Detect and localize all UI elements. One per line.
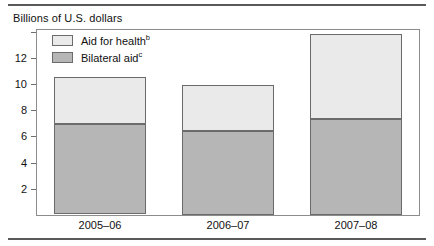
y-tick-mark xyxy=(31,163,36,164)
x-axis-label: 2007–08 xyxy=(292,219,420,231)
bar-segment-aid-for-health xyxy=(310,34,402,119)
legend: Aid for healthbBilateral aidc xyxy=(52,33,150,67)
legend-label-text: Aid for health xyxy=(81,35,146,47)
y-tick-label: 12 xyxy=(3,52,27,64)
y-tick-label: 10 xyxy=(3,78,27,90)
y-tick-label: 2 xyxy=(3,183,27,195)
bar-segment-aid-for-health xyxy=(182,85,274,131)
y-tick-label: 6 xyxy=(3,130,27,142)
bar-2007-08 xyxy=(310,34,402,215)
legend-label-text: Bilateral aid xyxy=(81,52,138,64)
y-axis-title: Billions of U.S. dollars xyxy=(13,12,122,24)
legend-item-bilateral-aid[interactable]: Bilateral aidc xyxy=(52,50,150,65)
x-axis-label: 2005–06 xyxy=(36,219,164,231)
legend-swatch-icon xyxy=(52,52,73,63)
bar-2005-06 xyxy=(54,77,146,215)
y-tick-mark xyxy=(31,58,36,59)
legend-footnote-marker: c xyxy=(138,50,142,59)
bar-segment-bilateral-aid xyxy=(54,124,146,214)
legend-swatch-icon xyxy=(52,35,73,46)
bar-segment-aid-for-health xyxy=(54,77,146,124)
bar-segment-bilateral-aid xyxy=(310,119,402,215)
bar-segment-bilateral-aid xyxy=(182,131,274,215)
legend-label: Bilateral aidc xyxy=(81,52,142,64)
y-tick-mark xyxy=(31,110,36,111)
y-tick-label: 4 xyxy=(3,157,27,169)
x-axis-label: 2006–07 xyxy=(164,219,292,231)
figure: Billions of U.S. dollars 24681012 2005–0… xyxy=(0,0,434,246)
legend-footnote-marker: b xyxy=(146,33,150,42)
bar-2006-07 xyxy=(182,85,274,215)
y-tick-label: 8 xyxy=(3,104,27,116)
legend-label: Aid for healthb xyxy=(81,35,150,47)
top-divider-rule xyxy=(8,4,426,6)
y-tick-mark xyxy=(31,136,36,137)
y-tick-mark xyxy=(31,84,36,85)
bottom-divider-rule xyxy=(8,238,426,240)
y-tick-mark xyxy=(31,189,36,190)
y-tick-mark xyxy=(31,32,36,33)
legend-item-aid-for-health[interactable]: Aid for healthb xyxy=(52,33,150,48)
